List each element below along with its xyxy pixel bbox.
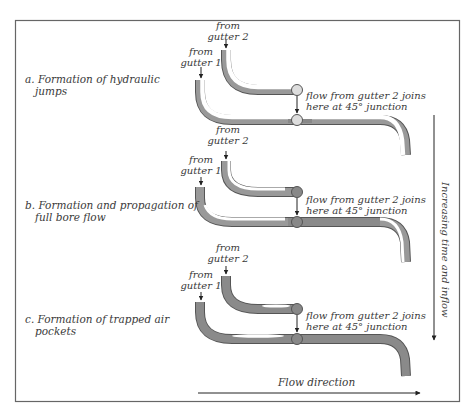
svg-text:gutter 1: gutter 1: [180, 280, 221, 291]
junction-icon: [292, 217, 303, 228]
panel-b-caption: b. Formation and propagation of full bor…: [25, 199, 198, 223]
svg-text:here at 45° junction: here at 45° junction: [306, 101, 408, 112]
svg-text:here at 45° junction: here at 45° junction: [306, 321, 408, 332]
time-axis: Increasing time and inflow: [434, 115, 451, 340]
svg-text:gutter 2: gutter 2: [207, 31, 248, 42]
svg-text:flow from gutter 2 joins: flow from gutter 2 joins: [305, 310, 426, 321]
panel-a-caption: a. Formation of hydraulic jumps: [25, 73, 160, 97]
panel-b-labels: from gutter 2 from gutter 1 flow from gu…: [180, 124, 425, 216]
panel-c-caption-line1: c. Formation of trapped air: [25, 313, 169, 325]
panel-a-caption-line2: jumps: [25, 85, 160, 97]
svg-text:flow from gutter 2 joins: flow from gutter 2 joins: [305, 90, 426, 101]
junction-icon: [292, 115, 303, 126]
svg-text:gutter 1: gutter 1: [180, 57, 221, 68]
svg-text:Flow direction: Flow direction: [277, 376, 355, 388]
svg-text:from: from: [188, 154, 213, 165]
panel-a-labels: from gutter 2 from gutter 1 flow from gu…: [180, 20, 425, 112]
svg-text:from: from: [215, 242, 240, 253]
svg-text:Increasing time and inflow: Increasing time and inflow: [440, 181, 451, 318]
svg-text:from: from: [215, 124, 240, 135]
svg-text:flow from gutter 2 joins: flow from gutter 2 joins: [305, 194, 426, 205]
svg-text:gutter 2: gutter 2: [207, 253, 248, 264]
svg-text:from: from: [188, 269, 213, 280]
junction-end-icon: [292, 187, 303, 198]
svg-text:gutter 2: gutter 2: [207, 135, 248, 146]
panel-b-caption-line1: b. Formation and propagation of: [25, 199, 198, 211]
junction-end-icon: [292, 304, 303, 315]
junction-icon: [292, 334, 303, 345]
panel-a-caption-line1: a. Formation of hydraulic: [25, 73, 160, 85]
svg-text:here at 45° junction: here at 45° junction: [306, 205, 408, 216]
panel-b-caption-line2: full bore flow: [25, 211, 198, 223]
flow-axis: Flow direction: [198, 376, 420, 393]
panel-c-caption-line2: pockets: [25, 325, 169, 337]
panel-c-caption: c. Formation of trapped air pockets: [25, 313, 169, 337]
panel-c-labels: from gutter 2 from gutter 1 flow from gu…: [180, 242, 425, 332]
svg-text:from: from: [188, 46, 213, 57]
svg-text:gutter 1: gutter 1: [180, 165, 221, 176]
svg-text:from: from: [215, 20, 240, 31]
junction-end-icon: [292, 85, 303, 96]
